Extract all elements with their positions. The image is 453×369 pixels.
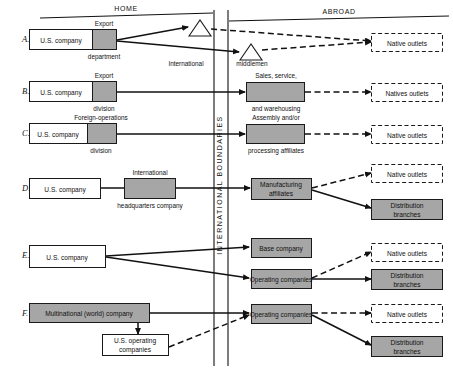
row-a-native-outlets-label: Native outlets bbox=[387, 40, 428, 47]
row-b: B. U.S. company Export division Sales, s… bbox=[22, 72, 443, 113]
row-d-distribution-branches-label-2: branches bbox=[393, 211, 421, 218]
row-a-abroad-middleman-triangle-icon bbox=[240, 44, 262, 60]
row-c-assembly-unit-top-label: Assembly and/or bbox=[252, 114, 300, 122]
row-e-base-company-label: Base company bbox=[259, 245, 303, 253]
row-a-home-middleman-triangle-icon bbox=[189, 20, 211, 36]
home-header-rule bbox=[40, 13, 213, 18]
home-header-label: HOME bbox=[114, 5, 137, 12]
row-a: A. U.S. company Export department Intern… bbox=[21, 20, 443, 67]
row-b-letter: B. bbox=[22, 86, 29, 96]
row-d-conn-manufacturing-to-branches bbox=[312, 190, 371, 208]
row-c-assembly-unit-box bbox=[247, 125, 305, 144]
row-c-unit-bottom-label: division bbox=[90, 147, 112, 154]
row-a-unit-top-label: Export bbox=[95, 20, 114, 28]
row-f-letter: F. bbox=[21, 308, 28, 318]
abroad-header-label: ABROAD bbox=[322, 8, 355, 15]
abroad-header-rule bbox=[229, 16, 449, 21]
row-f-conn-operating-to-branches bbox=[312, 315, 371, 345]
boundary-label: INTERNATIONAL BOUNDARIES bbox=[216, 115, 223, 254]
row-d-conn-manufacturing-to-outlets bbox=[312, 173, 371, 188]
organization-evolution-diagram: HOME ABROAD INTERNATIONAL BOUNDARIES A. … bbox=[0, 0, 453, 369]
row-a-conn-company-to-abroad-middleman bbox=[117, 41, 239, 52]
row-d-distribution-branches-label-1: Distribution bbox=[391, 202, 424, 209]
row-b-sales-service-unit-box bbox=[247, 83, 305, 102]
row-d-manufacturing-affiliates-label-1: Manufacturing bbox=[260, 181, 302, 189]
row-e-operating-companies-label: Operating companies bbox=[250, 276, 313, 284]
row-b-unit-top-label: Export bbox=[95, 72, 114, 80]
row-f-us-operating-label-2: companies bbox=[119, 346, 152, 354]
row-d-letter: D. bbox=[21, 183, 30, 193]
row-f-conn-us-operating-to-operating-companies bbox=[169, 315, 249, 347]
row-e: E. U.S. company Base company Operating c… bbox=[21, 239, 443, 290]
row-f-us-operating-label-1: U.S. operating bbox=[114, 337, 156, 345]
row-c: C. U.S. company Foreign-operations divis… bbox=[22, 114, 443, 155]
row-d-native-outlets-label: Native outlets bbox=[387, 171, 428, 178]
row-d: D. U.S. company International headquarte… bbox=[21, 165, 443, 220]
row-e-letter: E. bbox=[21, 250, 29, 260]
row-f-operating-companies-label: Operating companies bbox=[250, 311, 313, 319]
row-b-unit-bottom-label: division bbox=[93, 105, 115, 112]
row-c-company-label: U.S. company bbox=[37, 131, 79, 139]
row-c-unit-top-label: Foreign-operations bbox=[74, 114, 128, 122]
row-f-native-outlets-label: Native outlets bbox=[387, 311, 428, 318]
row-e-conn-operating-to-outlets bbox=[312, 252, 371, 278]
row-e-distribution-branches-label-2: branches bbox=[393, 281, 421, 288]
row-c-letter: C. bbox=[22, 128, 30, 138]
row-d-hq-bottom-label: headquarters company bbox=[117, 202, 183, 210]
row-d-hq-top-label: International bbox=[132, 169, 167, 176]
row-d-manufacturing-affiliates-label-2: affiliates bbox=[269, 190, 294, 197]
diagram-canvas: HOME ABROAD INTERNATIONAL BOUNDARIES A. … bbox=[0, 0, 453, 369]
row-c-foreign-operations-division-unit bbox=[88, 124, 117, 144]
row-f-multinational-company-label: Multinational (world) company bbox=[45, 310, 133, 318]
row-b-export-division-unit bbox=[93, 82, 117, 102]
row-b-native-outlets-label: Natives outlets bbox=[385, 90, 429, 97]
row-a-conn-company-to-home-middleman bbox=[117, 27, 188, 40]
row-a-export-department-unit bbox=[93, 30, 117, 50]
row-d-international-hq-box bbox=[125, 179, 176, 199]
row-f-distribution-branches-label-1: Distribution bbox=[391, 339, 424, 346]
row-a-letter: A. bbox=[21, 34, 29, 44]
row-d-company-label: U.S. company bbox=[44, 186, 86, 194]
row-b-sales-unit-top-label: Sales, service, bbox=[255, 72, 297, 79]
row-a-company-label: U.S. company bbox=[40, 37, 82, 45]
row-f-distribution-branches-label-2: branches bbox=[393, 348, 421, 355]
row-b-sales-unit-bottom-label: and warehousing bbox=[252, 105, 301, 113]
row-e-distribution-branches-label-1: Distribution bbox=[391, 272, 424, 279]
row-a-conn-home-middleman-to-outlets bbox=[211, 29, 371, 41]
row-c-assembly-unit-bottom-label: processing affiliates bbox=[248, 147, 304, 155]
row-a-conn-abroad-middleman-to-outlets bbox=[262, 42, 371, 50]
row-a-unit-bottom-label: department bbox=[88, 53, 121, 61]
row-c-native-outlets-label: Native outlets bbox=[387, 132, 428, 139]
row-e-native-outlets-label: Native outlets bbox=[387, 250, 428, 257]
row-b-company-label: U.S. company bbox=[40, 89, 82, 97]
row-e-company-label: U.S. company bbox=[46, 254, 88, 262]
row-f: F. Multinational (world) company U.S. op… bbox=[21, 304, 443, 357]
row-a-abroad-middleman-caption: middlemen bbox=[236, 60, 268, 67]
row-a-home-middleman-caption: International bbox=[168, 60, 203, 67]
